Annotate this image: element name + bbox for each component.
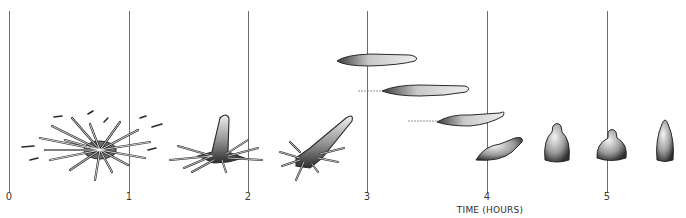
tick-label-5: 5	[600, 191, 614, 202]
spread-stellate-cell	[22, 111, 162, 180]
elongated-cell-trailing	[408, 112, 504, 126]
rounded-cell-c	[657, 120, 674, 162]
tick-label-0: 0	[2, 191, 16, 202]
tick-label-4: 4	[480, 191, 494, 202]
cell-with-leaning-process	[280, 116, 352, 180]
rounded-cell-b	[597, 130, 626, 161]
elongated-cell-middle	[358, 85, 469, 96]
cell-illustrations	[0, 0, 686, 218]
elongated-cell-top	[337, 54, 417, 66]
tick-label-1: 1	[122, 191, 136, 202]
rounded-cell-a	[545, 124, 570, 163]
tick-label-3: 3	[360, 191, 374, 202]
tick-label-2: 2	[241, 191, 255, 202]
cell-timeline-figure: 0 1 2 3 4 5 TIME (HOURS)	[0, 0, 686, 218]
axis-title: TIME (HOURS)	[440, 205, 540, 215]
retracting-cell	[476, 138, 522, 161]
cell-with-upright-process	[170, 115, 262, 172]
